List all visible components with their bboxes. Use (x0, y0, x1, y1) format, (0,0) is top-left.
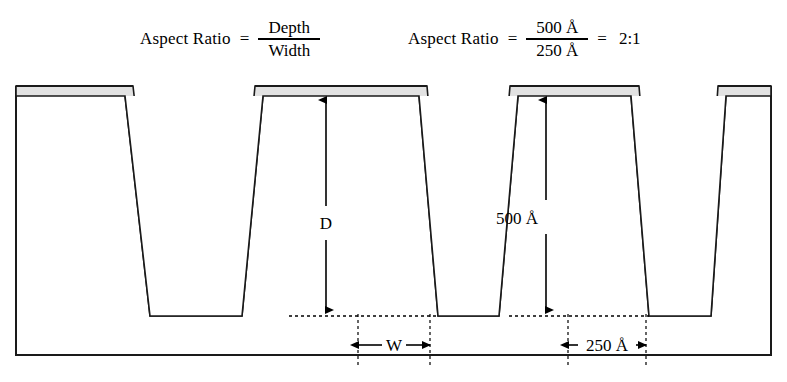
equals-sign: = (240, 29, 250, 49)
fraction-numerator: Depth (263, 18, 317, 37)
diagram-page: Aspect Ratio = Depth Width Aspect Ratio … (0, 0, 787, 382)
aspect-ratio-result: 2:1 (619, 29, 641, 49)
formula-label: Aspect Ratio (140, 29, 231, 49)
result-equals-sign: = (597, 29, 607, 49)
fraction-bar (258, 38, 320, 40)
trench-cross-section-diagram: D 500 Å W (0, 74, 787, 374)
formula-label: Aspect Ratio (408, 29, 499, 49)
trench-cavities (125, 96, 726, 316)
fraction: 500 Å 250 Å (526, 18, 588, 60)
fraction-numerator: 500 Å (530, 18, 584, 37)
fraction-denominator: 250 Å (530, 41, 584, 60)
depth-value-label: 500 Å (496, 209, 539, 228)
fraction-denominator: Width (262, 41, 316, 60)
width-label: W (386, 336, 403, 355)
fraction: Depth Width (258, 18, 320, 60)
width-dimension-W: W (358, 314, 430, 366)
width-dimension-250A: 250 Å (568, 314, 646, 366)
aspect-ratio-formula-numeric: Aspect Ratio = 500 Å 250 Å = 2:1 (408, 18, 641, 60)
formula-row: Aspect Ratio = Depth Width Aspect Ratio … (0, 16, 787, 74)
fraction-bar (526, 38, 588, 40)
depth-dimension-D: D (320, 100, 332, 310)
equals-sign: = (508, 29, 518, 49)
depth-label: D (320, 214, 332, 233)
width-value-label: 250 Å (586, 336, 629, 355)
aspect-ratio-formula-symbolic: Aspect Ratio = Depth Width (140, 18, 320, 60)
